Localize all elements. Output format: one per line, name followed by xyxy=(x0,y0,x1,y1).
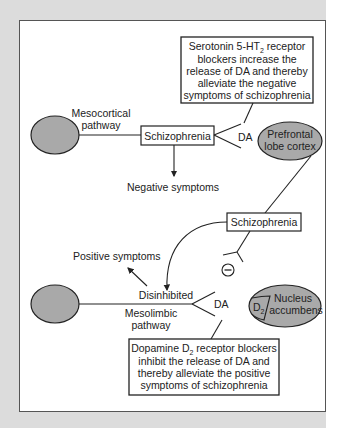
serotonin-blocker-box: Serotonin 5-HT2 receptor blockers increa… xyxy=(181,37,313,103)
bottom-box-line-3: thereby alleviate the positive xyxy=(138,367,271,379)
inhibitory-connector xyxy=(237,231,250,252)
mesocortical-origin-ellipse xyxy=(31,116,79,154)
nucleus-accumbens-ellipse: Nucleus accumbens D2 xyxy=(249,285,323,327)
top-box-connector xyxy=(244,103,253,123)
positive-symptoms-label: Positive symptoms xyxy=(73,250,161,262)
dopamine-pathway-diagram: Serotonin 5-HT2 receptor blockers increa… xyxy=(0,0,340,428)
schizophrenia-box-2-label: Schizophrenia xyxy=(231,216,298,228)
mesolimbic-label: Mesolimbic xyxy=(125,307,178,319)
da-fork-lower xyxy=(214,135,241,148)
positive-symptoms-arrow xyxy=(128,268,147,286)
mesolimbic-origin-ellipse xyxy=(31,285,79,323)
bottom-box-connector xyxy=(211,320,222,339)
bottom-box-line-1: Dopamine D2 receptor blockers xyxy=(131,342,277,356)
inhibitory-fork-right xyxy=(237,252,243,262)
prefrontal-label-2: lobe cortex xyxy=(264,140,316,152)
da-label-cortical: DA xyxy=(238,131,253,143)
top-box-line-2: blockers increase the xyxy=(197,53,296,65)
mesocortical-label-2: pathway xyxy=(81,119,121,131)
top-box-line-4: alleviate the negative xyxy=(198,77,297,89)
top-box-line-3: release of DA and thereby xyxy=(186,65,308,77)
negative-symptoms-label: Negative symptoms xyxy=(127,181,219,193)
accumbens-label: accumbens xyxy=(269,304,323,316)
top-box-line-1: Serotonin 5-HT xyxy=(189,40,261,52)
mesolimbic-label-2: pathway xyxy=(131,319,171,331)
dopamine-blocker-box: Dopamine D2 receptor blockers inhibit th… xyxy=(129,339,279,395)
prefrontal-connector xyxy=(265,156,311,213)
disinhibited-label: Disinhibited xyxy=(139,289,193,301)
curved-arrow-to-disinhibited xyxy=(167,222,227,290)
schizophrenia-box-1-label: Schizophrenia xyxy=(144,130,211,142)
bottom-box-line-2: inhibit the release of DA and xyxy=(138,355,269,367)
nucleus-label: Nucleus xyxy=(274,292,312,304)
da-fork-lower-limbic xyxy=(192,304,215,316)
bottom-box-line-4: symptoms of schizophrenia xyxy=(140,379,267,391)
mesocortical-label: Mesocortical xyxy=(72,107,131,119)
top-box-line-5: symptoms of schizophrenia xyxy=(183,89,310,101)
inhibitory-fork-left xyxy=(223,252,237,255)
da-label-limbic: DA xyxy=(214,298,229,310)
prefrontal-label: Prefrontal xyxy=(267,128,313,140)
da-fork-upper-limbic xyxy=(192,292,215,304)
svg-text:Serotonin 5-HT2 receptor: Serotonin 5-HT2 receptor xyxy=(189,40,306,54)
da-fork-upper xyxy=(214,124,241,135)
